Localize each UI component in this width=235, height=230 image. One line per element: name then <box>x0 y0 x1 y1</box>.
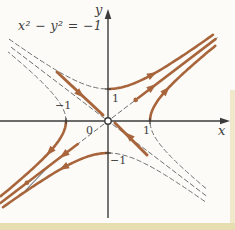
x-axis-label: x <box>218 124 225 137</box>
dot-asymptote-upper-right <box>133 98 138 103</box>
y-axis-label: y <box>95 3 102 16</box>
x-tick-label-pos1: 1 <box>143 125 150 136</box>
y-tick-label-neg1: −1 <box>110 155 126 166</box>
origin-tick-label: 0 <box>86 125 93 136</box>
hyperbola-right-branch-lower-dashed <box>150 121 206 188</box>
plot-canvas <box>0 0 235 230</box>
hyperbola-upper-branch-left-dashed <box>9 39 108 89</box>
y-tick-label-pos1: 1 <box>112 93 119 104</box>
y-axis-arrowhead-icon <box>105 9 112 19</box>
dot-asymptote-lower-left <box>25 181 30 186</box>
phase-portrait-figure: x² − y² = −1 y x 0 1 −1 1 −1 <box>0 0 235 230</box>
origin-saddle-point <box>105 118 111 124</box>
x-tick-label-neg1: −1 <box>55 100 71 111</box>
page-edge-right <box>230 90 235 223</box>
arrow-upper-branch-icon <box>146 69 158 80</box>
page-edge-bottom <box>0 223 235 230</box>
equation-label: x² − y² = −1 <box>18 20 102 33</box>
arrow-lower-branch-icon <box>57 162 69 173</box>
